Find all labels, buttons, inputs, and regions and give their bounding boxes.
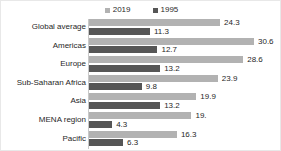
legend-label-1995: 1995 <box>161 6 179 14</box>
bar-value-label: 30.6 <box>258 36 274 47</box>
bar-1995[interactable] <box>89 102 160 109</box>
category-label: Pacific <box>2 133 86 144</box>
bar-1995[interactable] <box>89 121 112 128</box>
category-label: Europe <box>2 58 86 69</box>
bar-chart: 2019 1995 Global average24.311.3Americas… <box>0 0 281 151</box>
bar-value-label: 12.7 <box>161 44 177 55</box>
bar-value-label: 28.6 <box>247 54 263 65</box>
bar-value-label: 16.3 <box>181 129 197 140</box>
category-row: Pacific16.36.3 <box>1 130 281 149</box>
bar-2019[interactable] <box>89 93 196 100</box>
legend-swatch-1995 <box>153 8 158 13</box>
bar-value-label: 19. <box>195 110 206 121</box>
legend-entry-2019[interactable]: 2019 <box>105 6 131 14</box>
category-row: Americas30.612.7 <box>1 37 281 56</box>
category-label: Sub-Saharan Africa <box>2 77 86 88</box>
bar-value-label: 9.8 <box>146 81 157 92</box>
category-row: Europe28.613.2 <box>1 55 281 74</box>
bar-value-label: 24.3 <box>224 17 240 28</box>
category-row: Asia19.913.2 <box>1 92 281 111</box>
category-row: MENA region19.4.3 <box>1 111 281 130</box>
bar-value-label: 23.9 <box>222 73 238 84</box>
legend-swatch-2019 <box>105 8 110 13</box>
bar-1995[interactable] <box>89 46 157 53</box>
bar-value-label: 19.9 <box>200 91 216 102</box>
bar-value-label: 11.3 <box>154 26 169 37</box>
category-label: Americas <box>2 40 86 51</box>
category-label: Global average <box>2 21 86 32</box>
bar-2019[interactable] <box>89 112 191 119</box>
chart-legend: 2019 1995 <box>1 3 281 17</box>
bar-value-label: 4.3 <box>116 119 127 130</box>
bar-1995[interactable] <box>89 83 142 90</box>
bar-value-label: 13.2 <box>164 100 180 111</box>
legend-label-2019: 2019 <box>113 6 131 14</box>
category-label: Asia <box>2 95 86 106</box>
bar-value-label: 13.2 <box>164 63 180 74</box>
bar-value-label: 6.3 <box>127 137 138 148</box>
category-row: Sub-Saharan Africa23.99.8 <box>1 74 281 93</box>
bar-1995[interactable] <box>89 65 160 72</box>
bar-1995[interactable] <box>89 28 150 35</box>
legend-entry-1995[interactable]: 1995 <box>153 6 179 14</box>
bar-1995[interactable] <box>89 139 123 146</box>
category-row: Global average24.311.3 <box>1 18 281 37</box>
category-label: MENA region <box>2 114 86 125</box>
plot-area: Global average24.311.3Americas30.612.7Eu… <box>1 18 281 151</box>
